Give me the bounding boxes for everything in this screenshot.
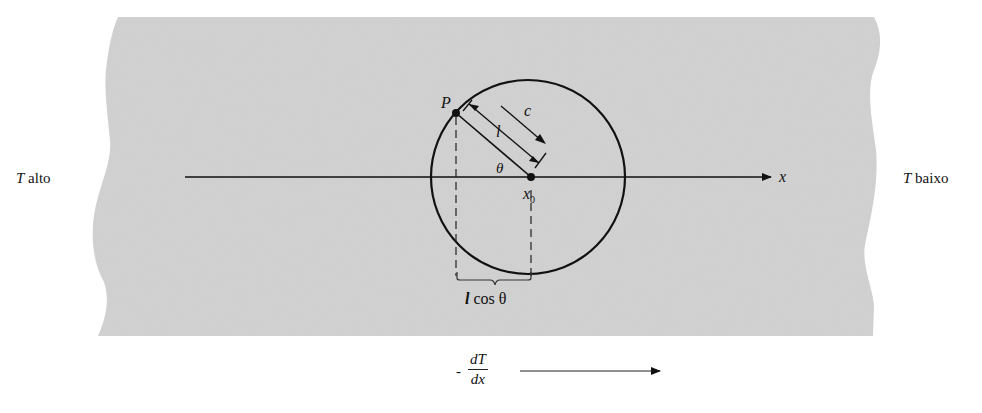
label-projection: l cos θ [465,291,506,307]
label-gradient-denominator: dx [471,370,485,387]
label-alto: alto [24,170,50,186]
label-point-p: P [441,95,451,111]
label-speed-c: c [524,103,531,119]
label-angle-theta: θ [496,161,503,176]
label-baixo: baixo [911,170,948,186]
label-t-high: T alto [16,171,51,186]
label-free-path-l: l [496,124,500,140]
label-gradient-fraction: dT dx [468,352,488,387]
label-x-axis: x [779,169,786,185]
label-origin-x0: x0 [523,186,535,205]
diagram-canvas [0,0,982,413]
label-gradient-numerator: dT [468,352,488,370]
origin-dot [527,173,535,181]
label-t-low: T baixo [903,171,948,186]
label-projection-cos: cos θ [469,290,506,307]
label-origin-sub: 0 [530,194,535,205]
point-p-dot [452,109,460,117]
label-gradient-minus: - [456,364,461,379]
